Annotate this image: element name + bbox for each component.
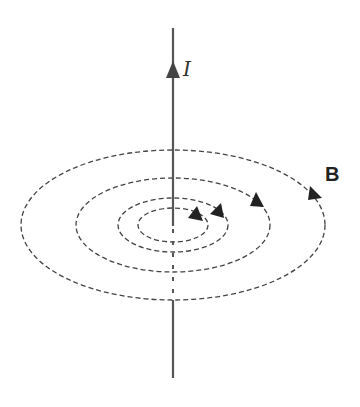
field-label: B — [325, 163, 339, 185]
field-arrows — [188, 186, 322, 221]
field-arrow-icon — [210, 203, 224, 218]
current-label: I — [182, 57, 192, 81]
magnetic-field-diagram: I B — [0, 0, 360, 407]
field-arrow-icon — [188, 206, 203, 221]
field-arrow-icon — [250, 192, 264, 207]
current-arrow-icon — [166, 61, 180, 78]
field-arrow-icon — [308, 186, 322, 200]
